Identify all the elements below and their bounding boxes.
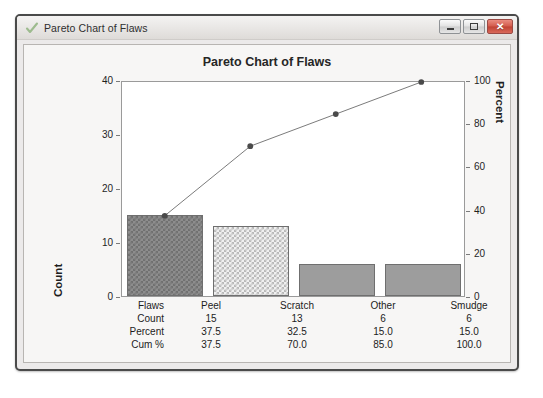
y-tickmark-right xyxy=(466,124,470,125)
y-tickmark-left xyxy=(116,189,120,190)
y-tickmark-right xyxy=(466,297,470,298)
y-tickmark-right xyxy=(466,254,470,255)
cell-percent-3: 15.0 xyxy=(426,325,512,338)
minimize-icon xyxy=(447,28,454,30)
window-titlebar[interactable]: Pareto Chart of Flaws ✕ xyxy=(17,16,517,40)
row-label: Flaws xyxy=(24,299,168,312)
row-label: Percent xyxy=(24,325,168,338)
y-tickmark-left xyxy=(116,81,120,82)
y-tickmark-left xyxy=(116,243,120,244)
cell-percent-2: 15.0 xyxy=(340,325,426,338)
chart-surface: Pareto Chart of Flaws Count Percent 4030… xyxy=(24,45,510,362)
cell-percent-1: 32.5 xyxy=(254,325,340,338)
maximize-icon xyxy=(470,23,478,30)
chart-client-area: Pareto Chart of Flaws Count Percent 4030… xyxy=(23,44,511,363)
checkmark-icon xyxy=(25,21,39,35)
cell-count-3: 6 xyxy=(426,312,512,325)
y-tickmark-right xyxy=(466,167,470,168)
cell-flaws-2: Other xyxy=(340,299,426,312)
y-axis-label-left: Count xyxy=(52,81,64,297)
window-title: Pareto Chart of Flaws xyxy=(44,22,148,34)
table-row: Count151366 xyxy=(24,312,512,325)
chart-title: Pareto Chart of Flaws xyxy=(24,55,510,69)
y-tickmark-right xyxy=(466,81,470,82)
cell-flaws-3: Smudge xyxy=(426,299,512,312)
cell-percent-0: 37.5 xyxy=(168,325,254,338)
table-row: Cum %37.570.085.0100.0 xyxy=(24,338,512,351)
window-controls: ✕ xyxy=(439,19,513,34)
y-tick-left-20: 20 xyxy=(87,183,113,194)
y-tick-left-40: 40 xyxy=(87,75,113,86)
bar-other[interactable] xyxy=(299,264,375,296)
y-tickmark-left xyxy=(116,297,120,298)
minimize-button[interactable] xyxy=(439,19,461,34)
cell-cum--2: 85.0 xyxy=(340,338,426,351)
y-tick-right-40: 40 xyxy=(474,205,502,216)
y-tick-right-60: 60 xyxy=(474,161,502,172)
y-tick-right-20: 20 xyxy=(474,248,502,259)
close-button[interactable]: ✕ xyxy=(487,19,513,34)
cell-count-1: 13 xyxy=(254,312,340,325)
y-tick-left-10: 10 xyxy=(87,237,113,248)
cell-cum--0: 37.5 xyxy=(168,338,254,351)
maximize-button[interactable] xyxy=(463,19,485,34)
y-axis-label-right: Percent xyxy=(494,81,506,297)
row-label: Count xyxy=(24,312,168,325)
bar-peel[interactable] xyxy=(127,215,203,296)
cell-flaws-0: Peel xyxy=(168,299,254,312)
y-tick-right-80: 80 xyxy=(474,118,502,129)
bar-series xyxy=(122,82,464,296)
table-row: FlawsPeelScratchOtherSmudge xyxy=(24,299,512,312)
bar-smudge[interactable] xyxy=(385,264,461,296)
cell-flaws-1: Scratch xyxy=(254,299,340,312)
data-table: FlawsPeelScratchOtherSmudgeCount151366Pe… xyxy=(24,299,512,351)
table-row: Percent37.532.515.015.0 xyxy=(24,325,512,338)
bar-scratch[interactable] xyxy=(213,226,289,296)
cell-count-2: 6 xyxy=(340,312,426,325)
cell-count-0: 15 xyxy=(168,312,254,325)
y-tickmark-right xyxy=(466,211,470,212)
cell-cum--1: 70.0 xyxy=(254,338,340,351)
y-tick-left-30: 30 xyxy=(87,129,113,140)
plot-area xyxy=(121,81,465,297)
close-icon: ✕ xyxy=(496,22,504,32)
screen: Pareto Chart of Flaws ✕ Pareto Chart of … xyxy=(0,0,543,398)
y-tickmark-left xyxy=(116,135,120,136)
row-label: Cum % xyxy=(24,338,168,351)
y-tick-right-100: 100 xyxy=(474,75,502,86)
chart-window: Pareto Chart of Flaws ✕ Pareto Chart of … xyxy=(15,14,519,371)
cell-cum--3: 100.0 xyxy=(426,338,512,351)
